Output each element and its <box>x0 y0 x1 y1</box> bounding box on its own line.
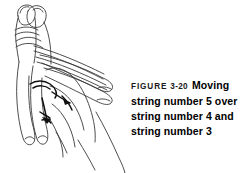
finger-shaft-1-right <box>34 18 36 63</box>
caption-line-3: string number 4 and <box>131 109 243 124</box>
wrist-line-inner <box>78 140 95 170</box>
caption-line-1: FIGURE3-20Moving <box>131 78 243 94</box>
drawing-strokes <box>15 5 125 173</box>
string-wrap-3 <box>16 37 41 41</box>
fingertip-upper-right <box>27 6 46 28</box>
string-figure-illustration <box>0 0 140 173</box>
figure-number: 3-20 <box>170 82 188 91</box>
active-string-loop-top <box>30 81 56 98</box>
wrist-line-outer <box>96 112 125 173</box>
hand-string-drawing <box>0 0 140 173</box>
fingernail-lower <box>97 99 110 101</box>
fingertip-nail-2 <box>38 136 47 138</box>
figure-caption: FIGURE3-20Moving string number 5 over st… <box>131 78 243 139</box>
figure-page: FIGURE3-20Moving string number 5 over st… <box>0 0 243 173</box>
figure-label: FIGURE <box>131 82 167 91</box>
fingertip-upper-left <box>18 5 36 25</box>
thumb-crease <box>56 132 67 153</box>
thumb-outline <box>49 118 63 157</box>
caption-head-text: Moving <box>192 79 229 91</box>
caption-line-2: string number 5 over <box>131 94 243 109</box>
string-wrap-2 <box>15 32 39 35</box>
string-strand-c <box>36 57 106 85</box>
fingertip-nail-1 <box>25 137 34 139</box>
string-strand-a <box>34 46 104 74</box>
lower-finger-2 <box>31 66 48 144</box>
caption-line-4: string number 3 <box>131 124 243 139</box>
